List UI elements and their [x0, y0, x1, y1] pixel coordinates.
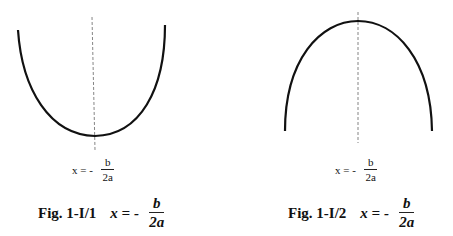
denominator: 2a — [365, 170, 375, 184]
figure-label: Fig. 1-I/2 — [288, 205, 346, 222]
denominator: 2a — [102, 170, 112, 184]
vertex-formula-1: x = - b 2a — [72, 156, 114, 184]
fraction: b 2a — [364, 156, 378, 184]
formula-lhs: x = - — [72, 164, 93, 176]
denominator: 2a — [399, 213, 414, 231]
parabola-up — [18, 25, 165, 136]
numerator: b — [149, 195, 165, 213]
parabola-down — [285, 21, 432, 131]
figure-label: Fig. 1-I/1 — [38, 205, 96, 222]
numerator: b — [101, 156, 115, 170]
numerator: b — [399, 195, 415, 213]
figure-caption-2: Fig. 1-I/2 x = - b 2a — [288, 195, 414, 231]
fraction: b 2a — [149, 195, 165, 231]
formula-lhs: x = - — [335, 164, 356, 176]
caption-lhs: x = - — [110, 205, 139, 222]
fraction: b 2a — [399, 195, 415, 231]
numerator: b — [364, 156, 378, 170]
fraction: b 2a — [101, 156, 115, 184]
denominator: 2a — [149, 213, 164, 231]
symmetry-axis-1 — [92, 17, 95, 150]
caption-lhs: x = - — [360, 205, 389, 222]
vertex-formula-2: x = - b 2a — [335, 156, 377, 184]
figure-caption-1: Fig. 1-I/1 x = - b 2a — [38, 195, 164, 231]
